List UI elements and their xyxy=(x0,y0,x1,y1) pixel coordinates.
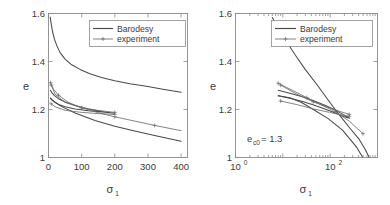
figure-container: 1.6 1.4 1.2 1 e xyxy=(0,0,390,205)
x-tick-label-exponent: 2 xyxy=(338,159,342,166)
y-tick-label: 1.6 xyxy=(219,8,232,19)
x-tick-label: 300 xyxy=(140,161,156,172)
legend-label: experiment xyxy=(300,34,343,44)
annotation-subscript: c0 xyxy=(253,139,260,146)
x-tick-label: 400 xyxy=(173,161,189,172)
y-tick-label: 1.4 xyxy=(219,56,232,67)
y-tick-label: 1.2 xyxy=(219,104,232,115)
x-axis-label-text: σ xyxy=(300,183,307,195)
x-tick-label: 100 xyxy=(74,161,90,172)
x-tick-label: 200 xyxy=(107,161,123,172)
legend-label: Barodesy xyxy=(300,24,337,34)
x-tick-label-10e2: 10 2 xyxy=(325,159,342,172)
curve-barodesy-loop xyxy=(51,90,115,113)
x-axis-label-text: σ xyxy=(107,183,114,195)
y-tick-label: 1.2 xyxy=(32,104,45,115)
x-axis-label: σ 1 xyxy=(300,183,313,197)
x-tick-label-base: 10 xyxy=(325,161,336,172)
y-tick-label: 1 xyxy=(40,152,45,163)
plot-svg-log: 1.6 1.4 1.2 1 e xyxy=(195,0,390,205)
plot-panel-linear: 1.6 1.4 1.2 1 e xyxy=(0,0,195,205)
x-axis-label-subscript: 1 xyxy=(308,190,312,197)
plot-svg-linear: 1.6 1.4 1.2 1 e xyxy=(0,0,195,205)
plot-panel-log: 1.6 1.4 1.2 1 e xyxy=(195,0,390,205)
x-tick-label: 0 xyxy=(46,161,51,172)
x-tick-label-base: 10 xyxy=(230,161,241,172)
experiment-ncl-markers xyxy=(49,81,157,128)
curve-barodesy-reload-tail xyxy=(51,98,182,141)
annotation-value: = 1.3 xyxy=(261,133,282,144)
y-axis-label: e xyxy=(23,80,29,92)
legend-label: experiment xyxy=(117,34,160,44)
legend-label: Barodesy xyxy=(117,24,154,34)
x-axis-label-subscript: 1 xyxy=(115,190,119,197)
y-tick-label: 1.4 xyxy=(32,56,45,67)
x-tick-label-exponent: 0 xyxy=(244,159,248,166)
y-tick-label: 1.6 xyxy=(32,8,45,19)
curve-experiment-ncl xyxy=(51,83,182,131)
x-axis-label: σ 1 xyxy=(107,183,120,197)
annotation-base: e xyxy=(247,133,252,144)
x-tick-label-10e0: 10 0 xyxy=(230,159,247,172)
annotation-ec0: e c0 = 1.3 xyxy=(247,133,282,146)
legend-log[interactable]: Barodesy experiment xyxy=(272,21,373,47)
legend-linear[interactable]: Barodesy experiment xyxy=(90,21,186,47)
y-axis-label: e xyxy=(210,80,216,92)
